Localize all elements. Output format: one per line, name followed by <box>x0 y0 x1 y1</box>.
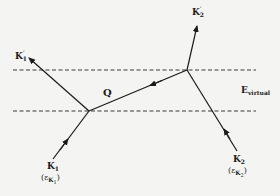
k1-energy-close: ) <box>57 173 60 182</box>
k1-sub: 1 <box>55 165 59 172</box>
k2-label: K2 <box>233 155 245 165</box>
k2-arrow-icon <box>224 129 230 139</box>
k1-incoming-line <box>53 111 89 159</box>
virtual-energy-label: Evirtual <box>241 86 270 96</box>
k2-prime-label: K2′ <box>192 6 202 18</box>
k1-prime-sub: 1 <box>23 55 27 62</box>
k2-energy-label: (εK2) <box>228 167 247 178</box>
k1-prime-outgoing-line <box>29 58 89 111</box>
k2-prime-outgoing-line <box>187 26 197 70</box>
k1-prime-mark: ′ <box>23 49 25 56</box>
k1-main: K <box>47 161 55 171</box>
k1-energy-label: (εK1) <box>41 174 60 185</box>
energy-subscript: virtual <box>248 89 270 96</box>
exchange-label-q: Q <box>103 88 112 98</box>
k2-main: K <box>233 154 241 164</box>
k2-prime-sub: 2 <box>200 11 204 18</box>
k2-prime-main: K <box>192 7 200 17</box>
k2-energy-close: ) <box>244 166 247 175</box>
energy-symbol: E <box>241 85 248 95</box>
q-arrow-icon <box>150 81 162 86</box>
k2-prime-mark: ′ <box>200 5 202 12</box>
k1-label: K1 <box>47 162 59 172</box>
k1-arrow-icon <box>60 139 68 150</box>
k1-prime-label: K1′ <box>15 50 25 62</box>
k2-sub: 2 <box>241 158 245 165</box>
k1-prime-main: K <box>15 51 23 61</box>
